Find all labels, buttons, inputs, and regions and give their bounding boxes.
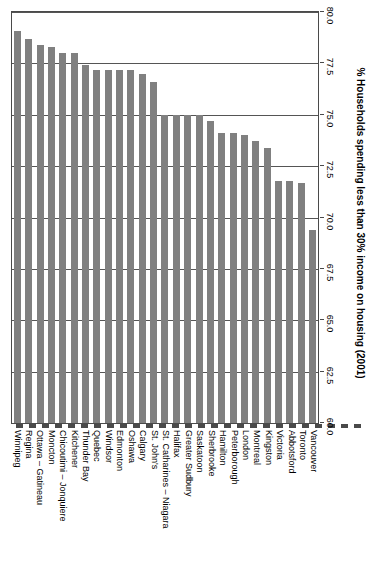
category-label: Abbotsford (286, 430, 295, 474)
category-tick-marks (11, 424, 319, 428)
bar (93, 70, 100, 423)
category-tick (289, 424, 296, 428)
chart-root: WinnipegReginaOttawa – GatineauMonctonCh… (0, 0, 370, 565)
value-tick-mark (320, 11, 324, 12)
bar (241, 135, 248, 423)
category-label-slot: Montreal (253, 430, 260, 558)
category-label: Thunder Bay (81, 430, 90, 482)
category-tick (224, 424, 231, 428)
bar (309, 230, 316, 423)
category-label: London (240, 430, 249, 460)
category-label-slot: St. Catharines – Niagara (161, 430, 168, 558)
bar (218, 133, 225, 423)
value-tick-label: 70.0 (325, 212, 334, 230)
category-label-slot: Greater Sudbury (184, 430, 191, 558)
category-label: Edmonton (115, 430, 124, 471)
bar (14, 31, 21, 424)
value-tick-mark (320, 217, 324, 218)
category-label: Victoria (275, 430, 284, 460)
category-label-slot: Kingston (264, 430, 271, 558)
category-tick (107, 424, 114, 428)
category-tick (81, 424, 88, 428)
category-label: Windsor (103, 430, 112, 463)
category-tick (42, 424, 49, 428)
category-label-slot: Kitchener (70, 430, 77, 558)
bar-series (12, 12, 318, 423)
category-tick (211, 424, 218, 428)
category-label-slot: Peterborough (230, 430, 237, 558)
category-label: Calgary (138, 430, 147, 461)
value-tick-label: 65.0 (325, 315, 334, 333)
category-tick (263, 424, 270, 428)
category-label: Sherbrooke (206, 430, 215, 477)
category-label: Hamilton (218, 430, 227, 466)
category-label-slot: Thunder Bay (82, 430, 89, 558)
bar (116, 70, 123, 423)
category-label-slot: Hamilton (219, 430, 226, 558)
value-tick-mark (320, 319, 324, 320)
value-tick-mark (320, 268, 324, 269)
category-label-slot: Moncton (47, 430, 54, 558)
category-label-slot: Vancouver (310, 430, 317, 558)
category-label-slot: Saskatoon (196, 430, 203, 558)
value-tick-label: 80.0 (325, 7, 334, 25)
category-tick (250, 424, 257, 428)
category-tick (55, 424, 62, 428)
category-tick (16, 424, 23, 428)
value-tick-label: 60.0 (325, 418, 334, 436)
category-label-slot: St. John's (150, 430, 157, 558)
bar (82, 65, 89, 423)
bar (275, 181, 282, 423)
category-label: Winnipeg (12, 430, 21, 468)
category-label-slot: Toronto (299, 430, 306, 558)
category-tick (68, 424, 75, 428)
category-label: Regina (23, 430, 32, 459)
category-axis-labels: WinnipegReginaOttawa – GatineauMonctonCh… (11, 430, 319, 558)
category-label-slot: Regina (24, 430, 31, 558)
category-label: Peterborough (229, 430, 238, 485)
bar (286, 181, 293, 423)
value-tick-label: 77.5 (325, 58, 334, 76)
bar (196, 115, 203, 423)
bar (150, 82, 157, 423)
category-label: Kitchener (69, 430, 78, 468)
category-label-slot: Edmonton (116, 430, 123, 558)
category-label: Halifax (172, 430, 181, 458)
value-axis: 60.062.565.067.570.072.575.077.580.0 (320, 0, 342, 436)
bar (298, 183, 305, 423)
value-tick-label: 62.5 (325, 366, 334, 384)
category-label: Moncton (46, 430, 55, 465)
category-tick (133, 424, 140, 428)
category-tick (94, 424, 101, 428)
category-label: Quebec (92, 430, 101, 462)
category-tick (237, 424, 244, 428)
category-label: Ottawa – Gatineau (35, 430, 44, 505)
value-tick-label: 67.5 (325, 264, 334, 282)
value-tick-label: 72.5 (325, 161, 334, 179)
category-label-slot: Oshawa (127, 430, 134, 558)
bar (71, 53, 78, 423)
value-tick-mark (320, 114, 324, 115)
category-label: Montreal (252, 430, 261, 465)
category-label: St. Catharines – Niagara (160, 430, 169, 529)
bar (127, 70, 134, 423)
value-tick-mark (320, 62, 324, 63)
bar (25, 39, 32, 423)
bar (184, 115, 191, 423)
category-label: St. John's (149, 430, 158, 469)
category-tick (29, 424, 36, 428)
category-label-slot: Winnipeg (13, 430, 20, 558)
bar (173, 115, 180, 423)
category-label-slot: Windsor (104, 430, 111, 558)
category-label-slot: Halifax (173, 430, 180, 558)
bar (230, 133, 237, 423)
category-label-slot: Chicoutimi – Jonquiere (59, 430, 66, 558)
category-label-slot: Abbotsford (287, 430, 294, 558)
category-label: Kingston (263, 430, 272, 465)
category-label: Saskatoon (195, 430, 204, 473)
category-tick (146, 424, 153, 428)
category-label-slot: Sherbrooke (207, 430, 214, 558)
bar (105, 70, 112, 423)
category-label-slot: Victoria (276, 430, 283, 558)
bar (252, 141, 259, 423)
